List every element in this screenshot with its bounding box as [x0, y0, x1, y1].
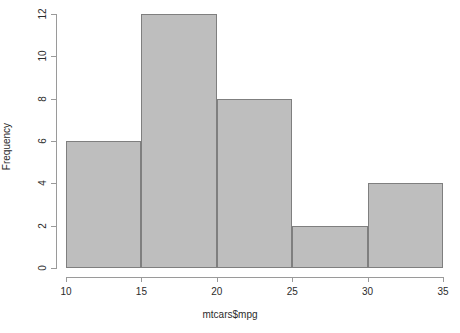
- histogram-bar: [368, 183, 443, 268]
- y-axis-tick-label: 6: [37, 135, 48, 147]
- x-axis-tick: [217, 277, 218, 282]
- x-axis-tick: [443, 277, 444, 282]
- y-axis-tick-label: 4: [37, 177, 48, 189]
- x-axis-tick-label: 15: [136, 286, 147, 298]
- y-axis-title: Frequency: [1, 123, 12, 170]
- y-axis-line: [56, 14, 57, 269]
- y-axis-tick-label: 12: [37, 8, 48, 20]
- y-axis-tick-label: 8: [37, 93, 48, 105]
- y-axis-tick: [51, 99, 56, 100]
- histogram-plot: 101520253035 024681012 mtcars$mpg Freque…: [0, 0, 460, 333]
- plot-area: [66, 14, 443, 268]
- x-axis-tick-label: 10: [60, 286, 71, 298]
- x-axis-tick: [141, 277, 142, 282]
- y-axis-tick: [51, 183, 56, 184]
- x-axis-tick: [66, 277, 67, 282]
- x-axis-tick-label: 35: [437, 286, 448, 298]
- histogram-bar: [66, 141, 141, 268]
- histogram-bar: [217, 99, 292, 268]
- y-axis-tick: [51, 14, 56, 15]
- histogram-bar: [292, 226, 367, 268]
- y-axis-tick: [51, 268, 56, 269]
- x-axis-tick-label: 20: [211, 286, 222, 298]
- y-axis-tick-label: 10: [37, 50, 48, 62]
- x-axis-tick-label: 30: [362, 286, 373, 298]
- x-axis-line: [66, 277, 444, 278]
- y-axis-tick: [51, 56, 56, 57]
- x-axis-title: mtcars$mpg: [0, 309, 460, 320]
- y-axis-tick-label: 2: [37, 220, 48, 232]
- y-axis-tick: [51, 226, 56, 227]
- histogram-bar: [141, 14, 216, 268]
- x-axis-tick-label: 25: [287, 286, 298, 298]
- y-axis-tick: [51, 141, 56, 142]
- y-axis-tick-label: 0: [37, 262, 48, 274]
- x-axis-tick: [292, 277, 293, 282]
- x-axis-tick: [368, 277, 369, 282]
